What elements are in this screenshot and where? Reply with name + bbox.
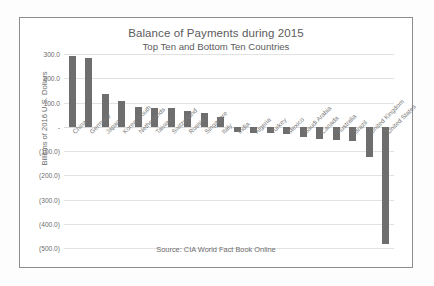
photographed-page: Balance of Payments during 2015 Top Ten … [0, 0, 434, 286]
y-axis-tick-label: (100.0) [39, 148, 60, 155]
chart-title-block: Balance of Payments during 2015 Top Ten … [20, 26, 412, 53]
bar [85, 58, 92, 127]
bar [382, 127, 389, 244]
y-axis-title: Billions of 2016 U.S. Dollars [40, 49, 49, 189]
y-axis-tick-label: 300.0 [43, 51, 60, 58]
bar-series [64, 54, 394, 248]
y-axis-tick-label: 100.0 [43, 99, 60, 106]
y-axis-tick-label: (200.0) [39, 172, 60, 179]
chart-subtitle: Top Ten and Bottom Ten Countries [20, 40, 412, 53]
source-note: Source: CIA World Fact Book Online [20, 245, 412, 254]
y-axis-tick-label: (400.0) [39, 220, 60, 227]
y-axis-tick-label: - [58, 123, 60, 130]
y-axis-tick-label: (300.0) [39, 196, 60, 203]
plot-area: 300.0200.0100.0-(100.0)(200.0)(300.0)(40… [64, 54, 394, 248]
chart-title: Balance of Payments during 2015 [20, 26, 412, 40]
bar [69, 56, 76, 127]
chart-frame: Balance of Payments during 2015 Top Ten … [19, 17, 413, 268]
y-axis-tick-label: 200.0 [43, 75, 60, 82]
